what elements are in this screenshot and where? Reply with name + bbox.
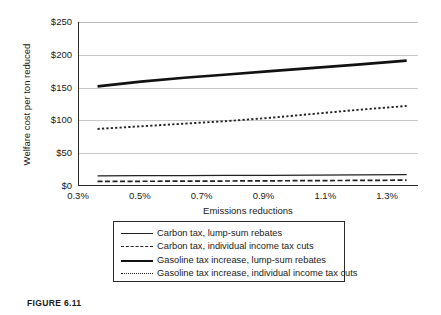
legend-item-label: Gasoline tax increase, individual income… [154,268,358,278]
legend-swatch-icon [120,240,154,253]
x-tick-label: 0.7% [191,190,213,201]
figure-caption: FIGURE 6.11 [27,298,81,308]
y-tick-label: $100 [32,114,72,125]
legend-swatch-icon [120,226,154,239]
y-axis-title: Welfare cost per ton reduced [20,22,34,186]
series-line [98,180,407,181]
legend-item-label: Carbon tax, individual income tax cuts [154,241,314,251]
x-tick-label: 1.3% [376,190,398,201]
y-tick-label: $0 [32,180,72,191]
series-lines [79,22,419,186]
chart-legend: Carbon tax, lump-sum rebatesCarbon tax, … [113,221,345,282]
figure-container: Welfare cost per ton reduced $0$50$100$1… [0,0,441,315]
plot-area [78,22,418,186]
legend-item[interactable]: Gasoline tax increase, individual income… [120,267,338,281]
x-tick-label: 0.9% [253,190,275,201]
x-tick-label: 0.5% [129,190,151,201]
legend-item-label: Gasoline tax increase, lump-sum rebates [154,255,326,265]
legend-swatch-icon [120,253,154,266]
y-tick-label: $150 [32,82,72,93]
series-line [98,61,407,87]
x-tick-label: 0.3% [67,190,89,201]
legend-item[interactable]: Carbon tax, lump-sum rebates [120,226,338,240]
chart-plot-wrapper: Welfare cost per ton reduced $0$50$100$1… [0,0,441,200]
series-line [98,106,407,129]
legend-item[interactable]: Gasoline tax increase, lump-sum rebates [120,253,338,267]
legend-item-label: Carbon tax, lump-sum rebates [154,228,282,238]
y-tick-label: $200 [32,49,72,60]
y-axis-title-label: Welfare cost per ton reduced [22,43,33,165]
legend-swatch-icon [120,267,154,280]
x-tick-label: 1.1% [314,190,336,201]
x-axis-title: Emissions reductions [78,205,418,216]
legend-item[interactable]: Carbon tax, individual income tax cuts [120,240,338,254]
y-tick-label: $50 [32,147,72,158]
series-line [98,175,407,176]
y-tick-label: $250 [32,16,72,27]
